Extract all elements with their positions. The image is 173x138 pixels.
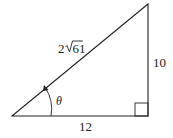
adjacent-side-label: 12 — [79, 119, 92, 134]
hypotenuse-radicand: 61 — [73, 41, 86, 56]
hypotenuse-coefficient: 2 — [58, 41, 65, 56]
angle-theta-label: θ — [56, 94, 62, 108]
triangle — [12, 4, 148, 116]
right-angle-marker — [135, 103, 148, 116]
opposite-side-label: 10 — [153, 55, 166, 70]
angle-arrowhead — [43, 85, 49, 91]
hypotenuse-label: 2 61 — [58, 41, 86, 56]
triangle-diagram: 2 61 10 12 θ — [0, 0, 173, 138]
angle-arc — [46, 88, 52, 116]
